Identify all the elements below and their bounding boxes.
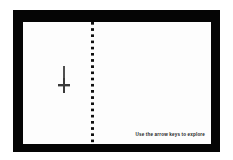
right-page[interactable]: Use the arrow keys to explore [94, 22, 211, 144]
left-page[interactable] [23, 22, 91, 144]
arrow-keys-hint: Use the arrow keys to explore [136, 132, 205, 138]
dagger-down-arrow-icon [58, 66, 70, 93]
screenshot-canvas: Use the arrow keys to explore [0, 0, 233, 160]
book-frame: Use the arrow keys to explore [13, 10, 220, 152]
page-spread[interactable]: Use the arrow keys to explore [23, 22, 211, 144]
